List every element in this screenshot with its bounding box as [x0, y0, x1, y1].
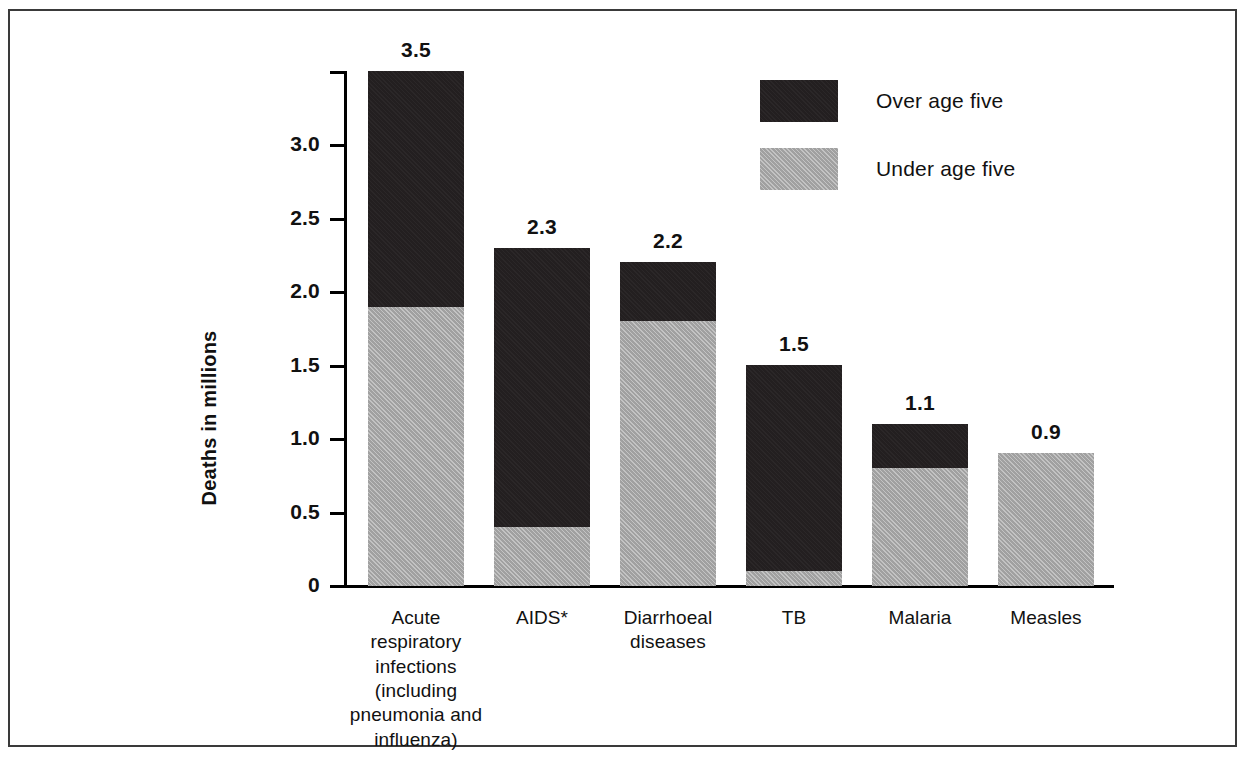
- bar-value-measles: 0.9: [966, 420, 1126, 444]
- y-tick-label-6: 3.0: [246, 132, 320, 156]
- y-tick-label-0: 0: [246, 573, 320, 597]
- y-tick-1: [330, 512, 345, 515]
- bar-malaria[interactable]: [872, 424, 968, 586]
- category-line: diseases: [598, 630, 738, 654]
- bar-segment-over-age-five: [746, 365, 842, 571]
- y-tick-4: [330, 291, 345, 294]
- bar-segment-over-age-five: [494, 248, 590, 527]
- y-tick-label-3: 1.5: [246, 353, 320, 377]
- category-label-aids: AIDS*: [472, 606, 612, 630]
- category-line: respiratory: [316, 630, 516, 654]
- bar-segment-over-age-five: [620, 262, 716, 321]
- category-line: (including: [316, 679, 516, 703]
- y-tick-label-1: 0.5: [246, 500, 320, 524]
- category-line: Measles: [976, 606, 1116, 630]
- bar-measles[interactable]: [998, 453, 1094, 586]
- bar-value-diarrhoeal-diseases: 2.2: [588, 229, 748, 253]
- bar-aids[interactable]: [494, 248, 590, 586]
- bar-segment-under-age-five: [746, 571, 842, 586]
- legend-swatch-under-age-five: [760, 148, 838, 190]
- y-tick-6: [330, 144, 345, 147]
- y-tick-0: [330, 585, 345, 588]
- y-tick-top: [330, 71, 345, 74]
- bar-acute-respiratory-infections[interactable]: [368, 71, 464, 586]
- y-tick-3: [330, 365, 345, 368]
- y-tick-label-5: 2.5: [246, 206, 320, 230]
- y-axis-line: [344, 71, 347, 587]
- category-label-measles: Measles: [976, 606, 1116, 630]
- plot-area: Deaths in millions 0 0.5 1.0 1.5 2.0 2.5…: [0, 0, 1246, 759]
- legend-swatch-over-age-five: [760, 80, 838, 122]
- y-axis-title: Deaths in millions: [198, 268, 221, 568]
- legend-label-over-age-five: Over age five: [876, 89, 1004, 113]
- bar-segment-under-age-five: [368, 307, 464, 586]
- category-line: infections: [316, 655, 516, 679]
- category-label-diarrhoeal-diseases: Diarrhoeal diseases: [598, 606, 738, 655]
- y-tick-label-4: 2.0: [246, 279, 320, 303]
- bar-segment-under-age-five: [494, 527, 590, 586]
- legend-label-under-age-five: Under age five: [876, 157, 1015, 181]
- bar-tb[interactable]: [746, 365, 842, 586]
- category-line: AIDS*: [472, 606, 612, 630]
- category-line: pneumonia and: [316, 703, 516, 727]
- bar-segment-under-age-five: [998, 453, 1094, 586]
- y-tick-label-2: 1.0: [246, 426, 320, 450]
- bar-value-malaria: 1.1: [840, 391, 1000, 415]
- bar-segment-over-age-five: [368, 71, 464, 307]
- bar-segment-over-age-five: [872, 424, 968, 468]
- bar-value-tb: 1.5: [714, 332, 874, 356]
- legend: Over age five Under age five: [760, 78, 1015, 214]
- legend-item-under-age-five[interactable]: Under age five: [760, 146, 1015, 192]
- y-tick-5: [330, 218, 345, 221]
- category-line: Diarrhoeal: [598, 606, 738, 630]
- bar-segment-under-age-five: [872, 468, 968, 586]
- category-label-malaria: Malaria: [850, 606, 990, 630]
- legend-item-over-age-five[interactable]: Over age five: [760, 78, 1015, 124]
- y-tick-2: [330, 438, 345, 441]
- category-line: TB: [724, 606, 864, 630]
- bar-value-acute-respiratory-infections: 3.5: [336, 38, 496, 62]
- category-label-tb: TB: [724, 606, 864, 630]
- bar-segment-under-age-five: [620, 321, 716, 586]
- bar-diarrhoeal-diseases[interactable]: [620, 262, 716, 586]
- category-line: influenza): [316, 728, 516, 752]
- category-line: Malaria: [850, 606, 990, 630]
- chart-figure: Deaths in millions 0 0.5 1.0 1.5 2.0 2.5…: [0, 0, 1246, 759]
